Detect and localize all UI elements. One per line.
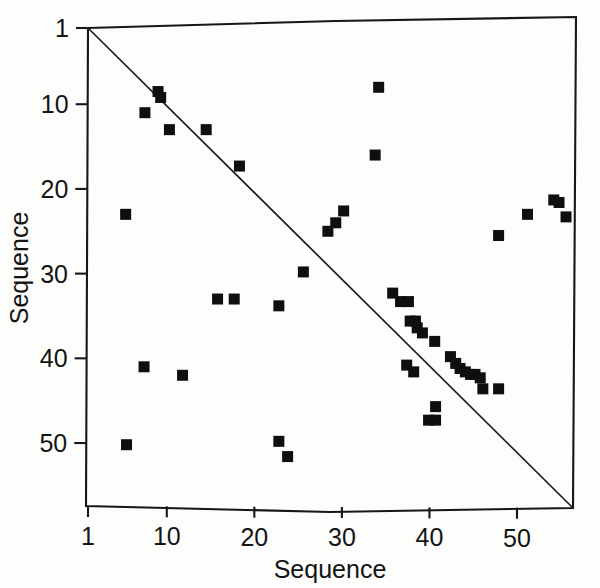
scatter-marker bbox=[282, 451, 293, 462]
scatter-marker bbox=[417, 327, 428, 338]
x-tick-label: 50 bbox=[503, 524, 531, 552]
scatter-marker bbox=[373, 82, 384, 93]
scatter-marker bbox=[273, 300, 284, 311]
x-tick-label: 10 bbox=[153, 522, 181, 550]
y-axis-title: Sequence bbox=[5, 212, 33, 325]
plot-svg: 11020304050 11020304050 Sequence Sequenc… bbox=[0, 0, 600, 588]
scatter-marker bbox=[561, 211, 572, 222]
y-axis-tick-labels: 11020304050 bbox=[39, 14, 69, 457]
scatter-marker bbox=[273, 436, 284, 447]
y-tick-label: 1 bbox=[55, 14, 69, 42]
scatter-marker bbox=[298, 266, 309, 277]
scatter-marker bbox=[330, 217, 341, 228]
scatter-marker bbox=[403, 296, 414, 307]
scatter-marker bbox=[234, 161, 245, 172]
scatter-markers bbox=[120, 82, 571, 462]
scatter-marker bbox=[493, 383, 504, 394]
scatter-marker bbox=[155, 92, 166, 103]
y-tick-label: 30 bbox=[40, 260, 68, 288]
y-tick-label: 40 bbox=[40, 344, 68, 372]
x-tick-label: 40 bbox=[416, 523, 444, 551]
scatter-marker bbox=[475, 372, 486, 383]
scatter-marker bbox=[430, 401, 441, 412]
scatter-marker bbox=[338, 205, 349, 216]
y-tick-label: 50 bbox=[39, 429, 67, 457]
scatter-marker bbox=[554, 197, 565, 208]
x-tick-label: 30 bbox=[328, 523, 356, 551]
scatter-marker bbox=[477, 383, 488, 394]
x-tick-label: 1 bbox=[81, 522, 95, 550]
scatter-marker bbox=[164, 124, 175, 135]
scatter-marker bbox=[430, 415, 441, 426]
x-axis-tick-labels: 11020304050 bbox=[81, 522, 531, 552]
scatter-marker bbox=[493, 230, 504, 241]
scatter-marker bbox=[408, 366, 419, 377]
scatter-marker bbox=[370, 150, 381, 161]
scatter-marker bbox=[201, 124, 212, 135]
scatter-marker bbox=[522, 209, 533, 220]
scatter-marker bbox=[139, 361, 150, 372]
scatter-marker bbox=[229, 294, 240, 305]
scatter-marker bbox=[212, 294, 223, 305]
scatter-marker bbox=[121, 439, 132, 450]
y-tick-label: 20 bbox=[41, 175, 69, 203]
scatter-marker bbox=[429, 336, 440, 347]
scatter-marker bbox=[177, 370, 188, 381]
x-axis-title: Sequence bbox=[274, 555, 387, 583]
x-tick-label: 20 bbox=[240, 523, 268, 551]
y-tick-label: 10 bbox=[41, 90, 69, 118]
scatter-marker bbox=[120, 209, 131, 220]
scatter-marker bbox=[139, 107, 150, 118]
dot-plot-figure: 11020304050 11020304050 Sequence Sequenc… bbox=[0, 0, 600, 588]
